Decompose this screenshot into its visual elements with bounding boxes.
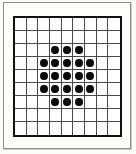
grid-cell-empty: [73, 109, 85, 122]
grid-cell-filled: [85, 57, 97, 70]
grid-cell-empty: [15, 109, 27, 122]
grid-cell-empty: [50, 109, 62, 122]
grid-cell-empty: [97, 122, 109, 135]
grid-cell-filled: [50, 57, 62, 70]
grid-cell-filled: [62, 70, 74, 83]
grid-cell-empty: [15, 70, 27, 83]
grid-cell-empty: [15, 44, 27, 57]
filled-dot-marker: [51, 98, 59, 107]
grid-cell-filled: [62, 44, 74, 57]
grid-cell-filled: [38, 57, 50, 70]
grid-cell-empty: [73, 31, 85, 44]
grid-cell-empty: [108, 109, 120, 122]
grid-cell-empty: [38, 31, 50, 44]
grid-cell-filled: [73, 57, 85, 70]
grid-cell-empty: [85, 18, 97, 31]
dot-grid: [15, 18, 120, 135]
filled-dot-marker: [40, 85, 48, 94]
filled-dot-marker: [75, 98, 83, 107]
grid-cell-empty: [62, 18, 74, 31]
filled-dot-marker: [63, 85, 71, 94]
grid-cell-empty: [27, 44, 39, 57]
grid-cell-empty: [108, 18, 120, 31]
grid-cell-empty: [15, 96, 27, 109]
grid-cell-empty: [27, 18, 39, 31]
grid-cell-empty: [27, 83, 39, 96]
grid-cell-empty: [38, 109, 50, 122]
grid-cell-empty: [38, 44, 50, 57]
grid-cell-empty: [50, 122, 62, 135]
grid-cell-empty: [27, 96, 39, 109]
grid-cell-empty: [85, 122, 97, 135]
grid-cell-filled: [50, 83, 62, 96]
figure-page: [0, 0, 136, 154]
grid-cell-empty: [73, 18, 85, 31]
grid-cell-empty: [85, 96, 97, 109]
grid-cell-empty: [85, 109, 97, 122]
grid-cell-empty: [15, 18, 27, 31]
grid-cell-empty: [85, 44, 97, 57]
grid-cell-filled: [85, 83, 97, 96]
grid-cell-empty: [108, 70, 120, 83]
filled-dot-marker: [75, 85, 83, 94]
grid-cell-empty: [108, 83, 120, 96]
grid-cell-empty: [27, 57, 39, 70]
filled-dot-marker: [86, 59, 94, 68]
grid-cell-empty: [27, 109, 39, 122]
grid-cell-empty: [62, 31, 74, 44]
grid-cell-empty: [15, 31, 27, 44]
filled-dot-marker: [63, 59, 71, 68]
grid-cell-empty: [97, 70, 109, 83]
filled-dot-marker: [40, 72, 48, 81]
grid-cell-empty: [62, 122, 74, 135]
grid-cell-empty: [62, 109, 74, 122]
grid-cell-empty: [97, 44, 109, 57]
grid-cell-filled: [73, 70, 85, 83]
grid-cell-filled: [73, 96, 85, 109]
grid-cell-empty: [27, 31, 39, 44]
grid-cell-empty: [108, 31, 120, 44]
grid-cell-empty: [73, 122, 85, 135]
grid-cell-empty: [97, 83, 109, 96]
filled-dot-marker: [51, 59, 59, 68]
grid-cell-empty: [15, 83, 27, 96]
grid-cell-empty: [85, 31, 97, 44]
grid-cell-empty: [97, 109, 109, 122]
grid-cell-empty: [15, 57, 27, 70]
filled-dot-marker: [51, 72, 59, 81]
grid-cell-empty: [108, 96, 120, 109]
grid-cell-empty: [27, 70, 39, 83]
grid-cell-filled: [73, 83, 85, 96]
grid-cell-filled: [50, 96, 62, 109]
grid-cell-filled: [50, 44, 62, 57]
filled-dot-marker: [86, 85, 94, 94]
grid-cell-empty: [97, 57, 109, 70]
grid-cell-filled: [50, 70, 62, 83]
grid-cell-filled: [73, 44, 85, 57]
grid-cell-empty: [97, 18, 109, 31]
filled-dot-marker: [75, 46, 83, 55]
grid-container: [13, 16, 122, 137]
grid-cell-filled: [62, 96, 74, 109]
filled-dot-marker: [75, 72, 83, 81]
grid-cell-filled: [38, 70, 50, 83]
grid-cell-empty: [97, 96, 109, 109]
grid-cell-empty: [38, 96, 50, 109]
grid-cell-filled: [85, 70, 97, 83]
filled-dot-marker: [63, 46, 71, 55]
grid-cell-empty: [108, 44, 120, 57]
grid-cell-empty: [38, 122, 50, 135]
grid-cell-filled: [62, 57, 74, 70]
grid-cell-filled: [62, 83, 74, 96]
filled-dot-marker: [51, 46, 59, 55]
filled-dot-marker: [63, 72, 71, 81]
grid-cell-empty: [50, 18, 62, 31]
grid-cell-empty: [15, 122, 27, 135]
grid-cell-empty: [50, 31, 62, 44]
filled-dot-marker: [63, 98, 71, 107]
filled-dot-marker: [75, 59, 83, 68]
grid-cell-empty: [108, 57, 120, 70]
grid-cell-empty: [38, 18, 50, 31]
grid-cell-empty: [108, 122, 120, 135]
filled-dot-marker: [40, 59, 48, 68]
